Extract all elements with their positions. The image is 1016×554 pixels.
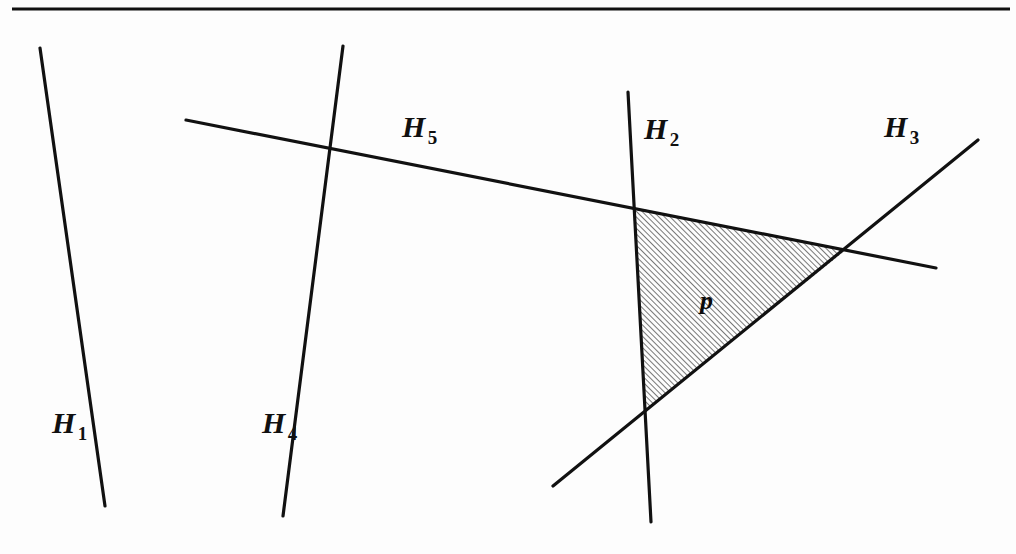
label-h1-letter: H bbox=[52, 406, 76, 439]
label-h5-letter: H bbox=[402, 110, 426, 143]
hyperplane-line-h4 bbox=[283, 46, 343, 516]
label-hyperplane-h4: H4 bbox=[262, 408, 295, 438]
label-hyperplane-h5: H5 bbox=[402, 112, 435, 142]
hyperplane-arrangement-canvas bbox=[0, 0, 1016, 554]
label-hyperplane-h1: H1 bbox=[52, 408, 85, 438]
label-h3-subscript: 3 bbox=[910, 127, 920, 148]
label-h4-letter: H bbox=[262, 406, 286, 439]
label-h1-subscript: 1 bbox=[78, 423, 88, 444]
label-h2-subscript: 2 bbox=[670, 129, 680, 150]
label-h5-subscript: 5 bbox=[428, 127, 438, 148]
label-hyperplane-h3: H3 bbox=[884, 112, 917, 142]
hyperplane-line-h3 bbox=[553, 140, 978, 486]
figure-container: H1 H4 H5 H2 H3 p bbox=[0, 0, 1016, 554]
hyperplane-line-h5 bbox=[186, 120, 936, 268]
label-cell-p: p bbox=[700, 288, 713, 314]
shaded-cell-p bbox=[633, 207, 846, 411]
label-hyperplane-h2: H2 bbox=[644, 114, 677, 144]
label-h3-letter: H bbox=[884, 110, 908, 143]
label-h2-letter: H bbox=[644, 112, 668, 145]
label-h4-subscript: 4 bbox=[288, 423, 298, 444]
